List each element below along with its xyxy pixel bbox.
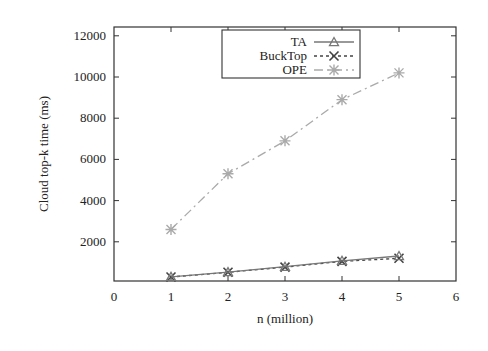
y-axis-label: Cloud top-k time (ms) bbox=[36, 96, 51, 212]
legend-label-ope: OPE bbox=[282, 62, 307, 77]
asterisk-marker-icon bbox=[280, 135, 291, 146]
x-tick-label: 6 bbox=[453, 289, 460, 304]
legend-label-bucktop: BuckTop bbox=[260, 48, 307, 63]
asterisk-marker-icon bbox=[223, 168, 234, 179]
y-tick-label: 10000 bbox=[74, 69, 107, 84]
asterisk-marker-icon bbox=[394, 67, 405, 78]
x-tick-label: 2 bbox=[225, 289, 232, 304]
y-tick-label: 12000 bbox=[74, 28, 107, 43]
series-layer bbox=[166, 67, 405, 281]
asterisk-marker-icon bbox=[329, 65, 340, 76]
series-line bbox=[171, 73, 399, 230]
x-tick-label: 0 bbox=[111, 289, 118, 304]
asterisk-marker-icon bbox=[337, 94, 348, 105]
x-tick-label: 4 bbox=[339, 289, 346, 304]
asterisk-marker-icon bbox=[166, 224, 177, 235]
series-ope bbox=[166, 67, 405, 235]
y-tick-label: 6000 bbox=[80, 151, 106, 166]
legend-label-ta: TA bbox=[291, 34, 308, 49]
x-tick-label: 5 bbox=[396, 289, 403, 304]
line-chart: 20004000600080001000012000 0123456 n (mi… bbox=[0, 0, 488, 351]
x-tick-label: 1 bbox=[168, 289, 175, 304]
y-tick-label: 4000 bbox=[80, 193, 106, 208]
y-tick-label: 8000 bbox=[80, 110, 106, 125]
series-line bbox=[171, 256, 399, 277]
x-axis-label: n (million) bbox=[257, 311, 313, 326]
legend: TABuckTopOPE bbox=[222, 30, 360, 78]
y-tick-label: 2000 bbox=[80, 234, 106, 249]
x-tick-label: 3 bbox=[282, 289, 289, 304]
